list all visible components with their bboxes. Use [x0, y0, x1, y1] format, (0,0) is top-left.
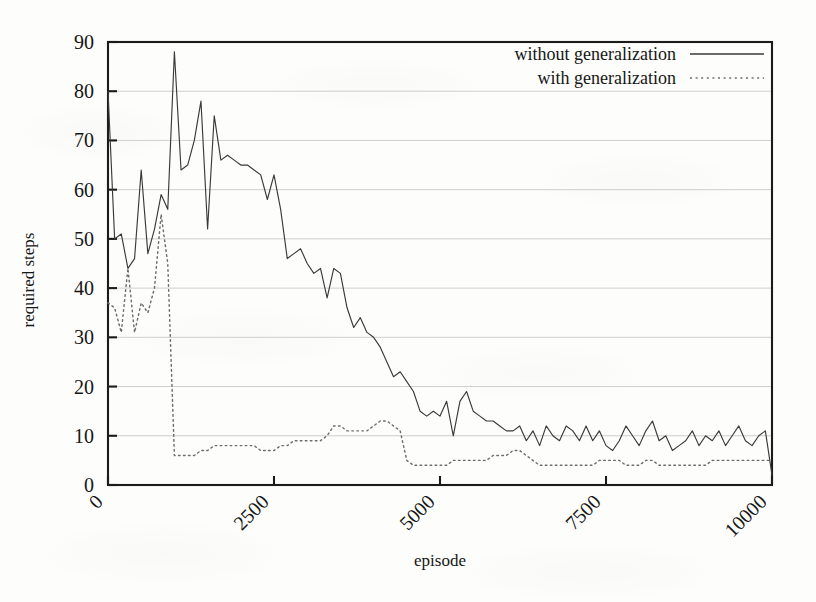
y-tick-label: 90: [74, 31, 94, 53]
series-layer: [108, 52, 772, 475]
chart-figure: 0102030405060708090 025005000750010000 e…: [0, 0, 816, 602]
x-tick-label: 7500: [561, 490, 605, 534]
legend-entry-without-generalization: without generalization: [515, 44, 676, 64]
y-axis-title: required steps: [19, 233, 38, 328]
y-axis-ticks: 0102030405060708090: [74, 31, 117, 496]
series-line-with-generalization: [108, 214, 772, 465]
y-tick-label: 50: [74, 228, 94, 250]
y-tick-label: 70: [74, 129, 94, 151]
y-tick-label: 40: [74, 277, 94, 299]
x-tick-label: 0: [84, 490, 107, 513]
plot-frame: [108, 42, 772, 485]
y-tick-label: 80: [74, 80, 94, 102]
y-tick-label: 30: [74, 326, 94, 348]
x-tick-label: 2500: [229, 490, 273, 534]
x-tick-label: 10000: [720, 490, 771, 541]
y-tick-label: 20: [74, 376, 94, 398]
y-tick-label: 60: [74, 179, 94, 201]
x-axis-title: episode: [414, 551, 466, 570]
x-tick-label: 5000: [395, 490, 439, 534]
line-chart: 0102030405060708090 025005000750010000 e…: [0, 0, 816, 602]
legend-entry-with-generalization: with generalization: [538, 68, 676, 88]
y-tick-label: 10: [74, 425, 94, 447]
gridlines: [108, 91, 772, 436]
series-line-without-generalization: [108, 52, 772, 475]
chart-legend: without generalization with generalizati…: [515, 44, 764, 88]
